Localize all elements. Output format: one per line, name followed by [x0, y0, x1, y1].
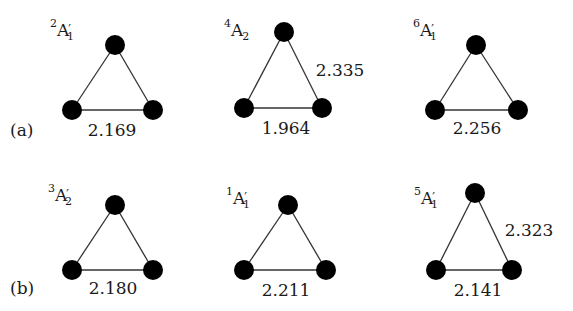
atom — [466, 35, 486, 55]
bond — [244, 32, 284, 108]
bond — [288, 205, 326, 270]
distance-label-b2-base: 2.211 — [262, 282, 311, 299]
row-label-b: (b) — [10, 280, 34, 297]
row-label-a: (a) — [10, 122, 33, 139]
trimer-structures-figure: (a) (b) 2A′1 4A2 6A′1 3A′2 1A′1 5A′1 2.1… — [0, 0, 573, 311]
atom — [234, 260, 254, 280]
atom — [425, 100, 445, 120]
term-symbol-b2: 1A′1 — [226, 190, 250, 207]
atom — [278, 195, 298, 215]
atom — [465, 183, 485, 203]
bond — [244, 205, 288, 270]
bond — [115, 45, 153, 110]
term-symbol-a2: 4A2 — [224, 22, 249, 39]
atom — [62, 100, 82, 120]
atom — [316, 260, 336, 280]
term-symbol-b1: 3A′2 — [48, 187, 72, 204]
structure-a1 — [62, 35, 163, 120]
atom — [143, 100, 163, 120]
distance-label-a1-base: 2.169 — [88, 122, 137, 139]
structure-b1 — [62, 195, 163, 280]
distance-label-b1-base: 2.180 — [89, 280, 138, 297]
bond — [72, 45, 115, 110]
structure-a3 — [425, 35, 528, 120]
atom — [426, 260, 446, 280]
molecule-drawings — [0, 0, 573, 311]
distance-label-b3-side: 2.323 — [505, 222, 554, 239]
atom — [105, 35, 125, 55]
atom — [105, 195, 125, 215]
atom — [62, 260, 82, 280]
distance-label-a2-base: 1.964 — [262, 120, 311, 137]
bond — [436, 193, 475, 270]
atom — [508, 100, 528, 120]
term-symbol-a3: 6A′1 — [413, 22, 437, 39]
atom — [234, 98, 254, 118]
distance-label-a2-side: 2.335 — [316, 62, 365, 79]
bond — [476, 45, 518, 110]
atom — [312, 98, 332, 118]
distance-label-b3-base: 2.141 — [454, 282, 503, 299]
atom — [274, 22, 294, 42]
distance-label-a3-base: 2.256 — [453, 120, 502, 137]
term-symbol-b3: 5A′1 — [414, 190, 438, 207]
bond — [435, 45, 476, 110]
term-symbol-a1: 2A′1 — [50, 22, 74, 39]
bond — [115, 205, 153, 270]
atom — [502, 260, 522, 280]
atom — [143, 260, 163, 280]
bond — [72, 205, 115, 270]
